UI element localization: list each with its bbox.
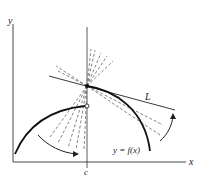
curve-left-branch [15,106,85,154]
figure-canvas: y x c L y = f(x) [0,0,208,182]
rotation-arrow-left [38,135,77,154]
secant-fan-upper [87,49,113,86]
tangent-point [85,84,89,88]
secant-fan-left [56,66,87,86]
axes [13,24,186,168]
tangent-label-L: L [144,91,151,102]
arrowhead-left-icon [73,151,79,157]
arrowhead-right-icon [170,113,176,119]
secant-fan-right [87,86,163,135]
function-label: y = f(x) [112,145,140,155]
y-axis-label: y [7,15,13,26]
c-label: c [84,167,88,177]
curve-right-branch [87,86,150,151]
diagram-tangent-line-limit: y x c L y = f(x) [0,0,208,182]
secant-fan-lower-left [50,86,87,150]
x-axis-label: x [188,156,194,167]
rotation-arrow-right [160,116,173,141]
open-point [85,104,89,108]
